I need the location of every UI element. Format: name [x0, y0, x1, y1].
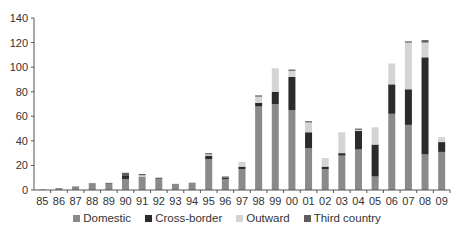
bar-stack-08 [422, 40, 429, 190]
bar-domestic [255, 106, 262, 190]
x-tick-label: 03 [336, 195, 348, 207]
y-axis: 020406080100120140 [10, 12, 34, 196]
x-tick-label: 04 [352, 195, 364, 207]
bar-stack-09 [438, 137, 445, 190]
bar-cross-border [205, 156, 212, 160]
bar-cross-border [355, 131, 362, 149]
bar-stack-89 [105, 183, 112, 190]
bar-outward [205, 154, 212, 155]
bar-stack-91 [139, 174, 146, 190]
x-tick-label: 96 [219, 195, 231, 207]
x-tick-label: 89 [103, 195, 115, 207]
bar-domestic [405, 125, 412, 190]
bar-domestic [139, 176, 146, 190]
bar-third-country [288, 70, 295, 71]
bar-outward [438, 137, 445, 142]
bar-stack-90 [122, 173, 129, 190]
bar-outward [288, 71, 295, 77]
bar-third-country [355, 129, 362, 130]
bar-domestic [355, 149, 362, 190]
bar-cross-border [372, 145, 379, 177]
bar-third-country [255, 95, 262, 96]
bar-cross-border [322, 167, 329, 169]
bar-stack-99 [272, 68, 279, 190]
bar-third-country [72, 187, 79, 188]
x-tick-label: 07 [402, 195, 414, 207]
bar-stack-96 [222, 176, 229, 190]
x-tick-label: 01 [302, 195, 314, 207]
bar-outward [355, 130, 362, 131]
bar-outward [255, 97, 262, 103]
bar-outward [405, 43, 412, 90]
y-tick-label: 40 [16, 135, 28, 147]
bar-cross-border [122, 175, 129, 179]
bar-outward [272, 68, 279, 91]
x-tick-label: 09 [436, 195, 448, 207]
x-tick-label: 93 [169, 195, 181, 207]
y-tick-label: 100 [10, 61, 28, 73]
bar-domestic [155, 179, 162, 190]
bar-third-country [422, 40, 429, 42]
y-tick-label: 0 [22, 184, 28, 196]
x-tick-label: 86 [53, 195, 65, 207]
bar-stack-97 [239, 162, 246, 190]
bar-third-country [205, 153, 212, 154]
bar-cross-border [239, 167, 246, 169]
x-tick-label: 08 [419, 195, 431, 207]
bar-cross-border [222, 178, 229, 179]
bar-domestic [205, 159, 212, 190]
bar-third-country [89, 183, 96, 184]
bar-cross-border [338, 153, 345, 155]
bar-stack-98 [255, 95, 262, 190]
bar-cross-border [405, 89, 412, 125]
x-tick-label: 87 [69, 195, 81, 207]
bar-outward [338, 132, 345, 153]
bar-domestic [422, 154, 429, 190]
bar-third-country [155, 178, 162, 179]
legend-item-third-country: Third country [304, 212, 381, 224]
bar-cross-border [388, 84, 395, 113]
y-tick-label: 20 [16, 159, 28, 171]
bar-outward [139, 175, 146, 176]
bar-stack-06 [388, 63, 395, 190]
x-tick-label: 00 [286, 195, 298, 207]
legend-label: Outward [246, 212, 289, 224]
bar-domestic [222, 179, 229, 190]
bar-domestic [338, 156, 345, 190]
bar-third-country [405, 41, 412, 42]
bar-third-country [222, 176, 229, 177]
bar-outward [322, 158, 329, 167]
bar-stack-94 [189, 183, 196, 190]
bar-stack-03 [338, 132, 345, 190]
bar-stack-07 [405, 41, 412, 190]
bar-domestic [89, 184, 96, 190]
bar-third-country [55, 188, 62, 189]
bar-stack-95 [205, 153, 212, 190]
x-tick-label: 02 [319, 195, 331, 207]
x-tick-label: 88 [86, 195, 98, 207]
x-tick-label: 90 [119, 195, 131, 207]
y-tick-label: 140 [10, 12, 28, 24]
bar-domestic [105, 184, 112, 190]
bar-cross-border [438, 142, 445, 152]
bar-domestic [388, 114, 395, 190]
bars [39, 40, 445, 190]
x-tick-label: 85 [36, 195, 48, 207]
legend: DomesticCross-borderOutwardThird country [0, 212, 454, 224]
x-tick-label: 99 [269, 195, 281, 207]
y-tick-label: 80 [16, 86, 28, 98]
x-tick-label: 97 [236, 195, 248, 207]
bar-domestic [189, 183, 196, 190]
x-tick-label: 91 [136, 195, 148, 207]
y-tick-label: 60 [16, 110, 28, 122]
bar-stack-02 [322, 158, 329, 190]
bar-stack-00 [288, 70, 295, 190]
bar-stack-93 [172, 184, 179, 190]
bar-third-country [139, 174, 146, 175]
legend-swatch [236, 215, 243, 222]
bar-domestic [172, 184, 179, 190]
bar-stack-04 [355, 129, 362, 190]
stacked-bar-chart: 020406080100120140 858687888990919293949… [0, 0, 454, 210]
bar-cross-border [305, 132, 312, 148]
x-tick-label: 94 [186, 195, 198, 207]
